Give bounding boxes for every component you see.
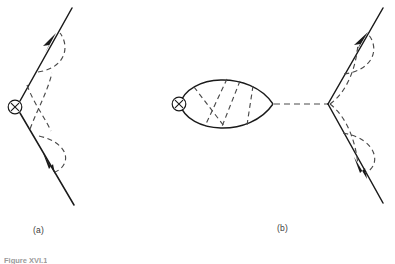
- panel-b-vertex-group: [172, 97, 186, 111]
- figure-caption: Figure XVI.1: [4, 255, 47, 264]
- loop-boson-4: [247, 86, 253, 125]
- loop-boson-2: [205, 79, 227, 126]
- panel-b-leg-dashed-lines: [330, 34, 375, 173]
- loop-boson-1: [194, 87, 224, 126]
- vertical-boson-lower: [330, 104, 358, 166]
- panel-label-b: (b): [277, 223, 288, 233]
- panel-b-diagram: [172, 8, 383, 203]
- upper-leg-arrowhead: [354, 32, 368, 52]
- panel-a-diagram: [8, 8, 74, 205]
- panel-a-arrowheads: [43, 33, 56, 174]
- lower-leg-arrowhead: [354, 157, 367, 179]
- panel-a-solid-lines: [20, 8, 74, 205]
- upper-fermion-leg: [328, 8, 383, 104]
- panel-b-solid-lines: [328, 8, 383, 203]
- fermion-loop-lens-top: [180, 80, 273, 104]
- panel-label-a: (a): [33, 225, 44, 235]
- loop-boson-3: [221, 81, 240, 129]
- upper-leg-arrowhead: [43, 33, 56, 53]
- lower-fermion-leg: [328, 104, 383, 203]
- boson-cross-1: [27, 85, 51, 131]
- panel-b-loop-dashed-lines: [194, 79, 253, 129]
- boson-cross-2: [30, 73, 52, 129]
- feynman-diagram-figure: [0, 0, 395, 264]
- panel-a-vertex-group: [8, 100, 22, 114]
